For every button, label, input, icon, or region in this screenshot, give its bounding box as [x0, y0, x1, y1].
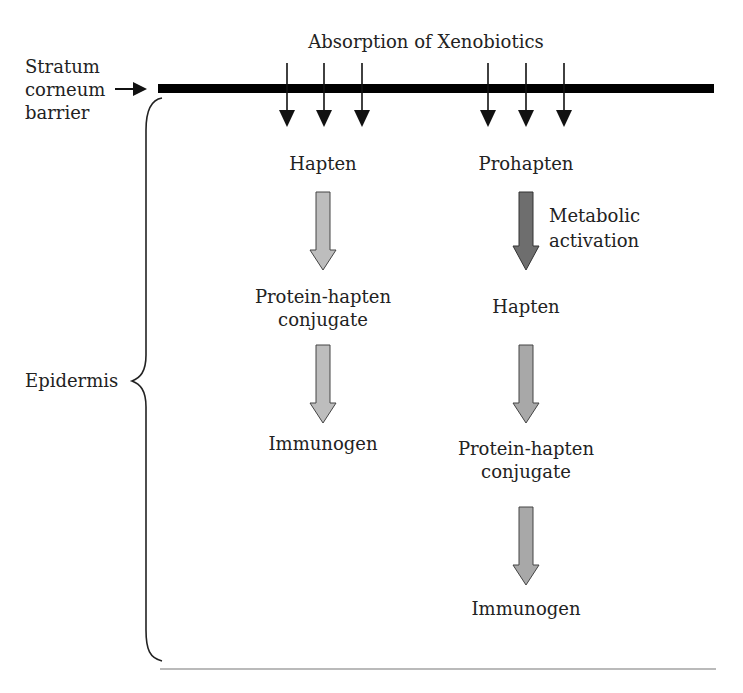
absorption-arrow-icon: [354, 63, 370, 127]
activation-line: activation: [549, 228, 640, 253]
absorption-arrow-icon: [518, 63, 534, 127]
diagram-graphics: [0, 0, 743, 693]
absorption-arrow-icon: [316, 63, 332, 127]
block-arrow-icon: [310, 345, 336, 423]
left-conjugate-label: Protein-hapten conjugate: [255, 285, 391, 331]
block-arrow-icon: [513, 345, 539, 423]
epidermis-brace: [132, 98, 162, 661]
right-prohapten-label: Prohapten: [479, 153, 574, 175]
right-immunogen-label: Immunogen: [471, 598, 580, 620]
barrier-label: Stratum corneum barrier: [25, 55, 105, 124]
metabolic-activation-arrow-icon: [513, 192, 539, 270]
conjugate-line: Protein-hapten: [255, 285, 391, 308]
diagram-canvas: Absorption of Xenobiotics Stratum corneu…: [0, 0, 743, 693]
absorption-arrow-icon: [279, 63, 295, 127]
epidermis-label: Epidermis: [25, 370, 118, 392]
barrier-label-line: corneum: [25, 78, 105, 101]
right-hapten-label: Hapten: [492, 296, 559, 318]
block-arrow-icon: [513, 507, 539, 585]
conjugate-line: Protein-hapten: [458, 437, 594, 460]
conjugate-line: conjugate: [255, 308, 391, 331]
absorption-arrow-icon: [556, 63, 572, 127]
barrier-label-line: Stratum: [25, 55, 105, 78]
absorption-arrow-icon: [480, 63, 496, 127]
block-arrow-icon: [310, 192, 336, 270]
absorption-arrows: [279, 63, 572, 127]
barrier-label-line: barrier: [25, 101, 105, 124]
conjugate-line: conjugate: [458, 460, 594, 483]
barrier-pointer-arrow: [115, 82, 147, 96]
left-hapten-label: Hapten: [289, 153, 356, 175]
diagram-title: Absorption of Xenobiotics: [308, 31, 543, 53]
left-immunogen-label: Immunogen: [268, 433, 377, 455]
metabolic-activation-label: Metabolic activation: [549, 203, 640, 253]
stratum-corneum-bar: [158, 84, 714, 93]
right-conjugate-label: Protein-hapten conjugate: [458, 437, 594, 483]
activation-line: Metabolic: [549, 203, 640, 228]
